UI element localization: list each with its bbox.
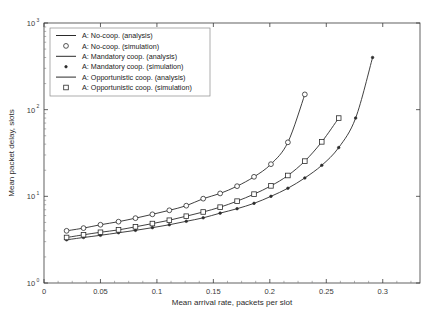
marker-square [319,140,324,145]
legend-label: A: No-coop. (analysis) [82,31,153,40]
marker-dot [304,177,307,180]
y-tick-label: 10 [27,19,35,28]
marker-dot [151,226,154,229]
marker-square [133,225,138,230]
legend-entry: A: Opportunistic coop. (simulation) [64,83,192,92]
x-tick-label: 0.2 [265,287,275,296]
legend-marker-circle [64,44,69,49]
x-tick-label: 0.05 [93,287,108,296]
legend: A: No-coop. (analysis)A: No-coop. (simul… [50,28,210,96]
marker-circle [81,226,86,231]
marker-square [269,184,274,189]
marker-square [235,199,240,204]
series-4 [67,118,339,237]
marker-square [218,205,223,210]
x-axis-title: Mean arrival rate, packets per slot [172,298,293,307]
marker-dot [168,223,171,226]
marker-circle [302,92,307,97]
chart-figure: 00.050.10.150.20.250.3100101102103Mean a… [0,0,446,322]
y-tick-exponent: 3 [37,17,40,23]
marker-square [150,221,155,226]
marker-circle [64,228,69,233]
x-tick-label: 0.1 [152,287,162,296]
marker-circle [201,196,206,201]
y-tick-exponent: 2 [37,103,40,109]
marker-dot [320,164,323,167]
legend-label: A: Opportunistic coop. (analysis) [82,73,185,82]
y-tick-exponent: 1 [37,190,40,196]
marker-square [167,218,172,223]
marker-square [336,116,341,121]
y-tick-label: 10 [27,279,35,288]
marker-circle [184,203,189,208]
y-tick-label: 10 [27,192,35,201]
marker-square [303,159,308,164]
marker-square [201,210,206,215]
marker-square [116,228,121,233]
legend-label: A: Opportunistic coop. (simulation) [82,83,192,92]
legend-marker-square [64,85,69,90]
legend-marker-dot [65,65,68,68]
marker-square [252,192,257,197]
marker-square [64,235,69,240]
legend-entry: A: Mandatory coop. (simulation) [65,62,184,71]
x-tick-label: 0 [42,287,46,296]
marker-dot [236,207,239,210]
legend-label: A: Mandatory coop. (simulation) [82,62,183,71]
marker-dot [253,202,256,205]
marker-dot [185,220,188,223]
x-tick-label: 0.3 [378,287,388,296]
y-axis-title: Mean packet delay, slots [7,109,16,196]
marker-circle [252,174,257,179]
legend-label: A: No-coop. (simulation) [82,42,159,51]
marker-square [81,232,86,237]
marker-circle [133,216,138,221]
series-1 [64,92,307,233]
marker-dot [337,146,340,149]
marker-dot [287,187,290,190]
marker-circle [269,162,274,167]
marker-circle [116,219,121,224]
x-tick-label: 0.25 [319,287,334,296]
marker-dot [354,117,357,120]
marker-square [184,214,189,219]
marker-circle [167,208,172,213]
marker-square [98,230,103,235]
marker-dot [270,195,273,198]
y-tick-exponent: 0 [37,277,40,283]
marker-square [286,173,291,178]
legend-label: A: Mandatory coop. (analysis) [82,52,177,61]
marker-circle [98,222,103,227]
x-tick-label: 0.15 [206,287,221,296]
series-5 [64,116,341,240]
curve-path [67,118,339,237]
y-tick-label: 10 [27,106,35,115]
marker-dot [202,217,205,220]
marker-dot [371,56,374,59]
marker-dot [219,212,222,215]
marker-circle [218,191,223,196]
marker-circle [285,140,290,145]
marker-circle [150,212,155,217]
chart-canvas: 00.050.10.150.20.250.3100101102103Mean a… [0,0,446,322]
marker-circle [235,184,240,189]
